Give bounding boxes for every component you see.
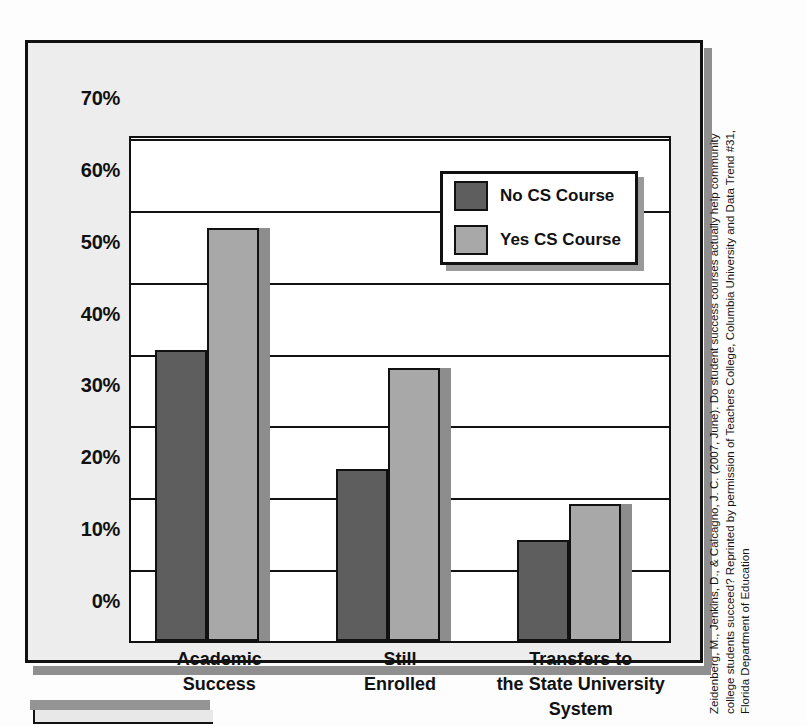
legend-swatch-light [454,225,488,255]
x-axis-category-label: Transfers tothe State UniversitySystem [450,647,711,722]
legend-label: No CS Course [500,186,614,206]
source-caption-line-3: Florida Department of Education [739,548,751,714]
source-caption-line-1: Zeidenberg, M., Jenkins, D., & Calcagno,… [708,134,720,714]
bar-yes-cs-course [569,504,621,641]
y-axis-tick-label: 30% [55,374,129,397]
legend-swatch-dark [454,181,488,211]
x-axis-category-line: Transfers to [450,647,711,672]
y-axis-tick-label: 0% [55,590,129,613]
y-axis: 70%60%50%40%30%20%10%0% [28,43,129,660]
bar-no-cs-course [517,540,569,641]
y-axis-tick-label: 50% [55,230,129,253]
bar-yes-cs-course [388,368,440,641]
chart-legend: No CS CourseYes CS Course [440,171,638,265]
y-axis-tick-label: 40% [55,302,129,325]
source-caption: Zeidenberg, M., Jenkins, D., & Calcagno,… [706,14,778,714]
source-caption-line-2: college students succeed? Reprinted by p… [724,130,736,714]
y-axis-tick-label: 60% [55,158,129,181]
bar-no-cs-course [336,469,388,641]
page-footer-rule-shadow [30,700,210,710]
y-axis-tick-label: 20% [55,446,129,469]
legend-item: No CS Course [443,174,635,218]
legend-label: Yes CS Course [500,230,621,250]
y-axis-tick-label: 10% [55,518,129,541]
bar-no-cs-course [155,350,207,641]
x-axis-category-line: System [450,697,711,722]
gridline-70 [131,139,669,141]
x-axis-category-line: the State University [450,672,711,697]
page-footer-rule [33,710,213,724]
legend-item: Yes CS Course [443,218,635,262]
bar-yes-cs-course [207,228,259,641]
y-axis-tick-label: 70% [55,87,129,110]
chart-frame: 70%60%50%40%30%20%10%0% AcademicSuccessS… [25,40,703,663]
